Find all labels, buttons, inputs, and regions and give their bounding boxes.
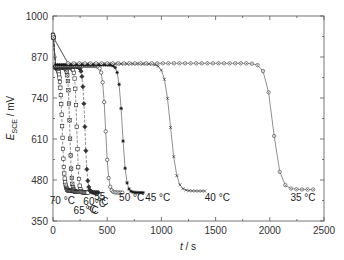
y-axis-label: ESCE / mV — [5, 95, 18, 140]
marker-square — [58, 76, 61, 79]
marker-dot — [224, 63, 225, 64]
y-tick-label: 1000 — [26, 11, 49, 22]
marker-asterisk — [119, 107, 122, 110]
marker-dot — [118, 63, 119, 64]
x-tick-label: 0 — [50, 225, 56, 236]
curve-label: 50 °C — [119, 192, 144, 203]
marker-dot — [157, 63, 158, 64]
x-tick-label: 500 — [99, 225, 116, 236]
marker-dot — [279, 171, 280, 172]
marker-dot — [140, 63, 141, 64]
marker-dot — [201, 63, 202, 64]
marker-dot — [235, 63, 236, 64]
marker-dot — [196, 63, 197, 64]
marker-square — [59, 86, 62, 89]
marker-dot — [129, 63, 130, 64]
series-55c — [51, 33, 101, 195]
marker-dot — [179, 63, 180, 64]
marker-dot — [168, 63, 169, 64]
marker-dot — [302, 189, 303, 190]
marker-dot — [246, 63, 247, 64]
marker-diamond — [80, 74, 84, 78]
marker-diamond — [84, 149, 88, 153]
marker-circle — [98, 67, 101, 70]
marker-dot — [257, 65, 258, 66]
marker-square — [77, 177, 80, 180]
marker-dot — [146, 63, 147, 64]
marker-square — [72, 71, 75, 74]
marker-asterisk — [121, 139, 124, 142]
marker-dot — [123, 63, 124, 64]
marker-dot — [134, 63, 135, 64]
marker-dot — [285, 185, 286, 186]
marker-dot — [73, 63, 74, 64]
marker-dot — [53, 34, 54, 35]
x-tick-label: 1000 — [150, 225, 173, 236]
marker-square — [62, 157, 65, 160]
marker-dot — [84, 63, 85, 64]
marker-dot — [212, 63, 213, 64]
marker-circle — [109, 185, 112, 188]
series-35c — [51, 33, 315, 191]
marker-circle — [107, 176, 110, 179]
marker-diamond — [85, 167, 89, 171]
marker-dot — [79, 63, 80, 64]
marker-square — [78, 184, 81, 187]
y-tick-label: 740 — [31, 93, 48, 104]
marker-square — [59, 93, 62, 96]
marker-circle — [101, 81, 104, 84]
marker-square — [62, 165, 65, 168]
marker-dot — [53, 37, 54, 38]
marker-dot — [107, 63, 108, 64]
series-line — [53, 35, 313, 190]
marker-circle — [102, 100, 105, 103]
curve-label: °C — [95, 198, 106, 209]
marker-asterisk — [113, 66, 116, 69]
x-tick-label: 2000 — [259, 225, 282, 236]
marker-circle — [99, 71, 102, 74]
marker-dot — [207, 63, 208, 64]
marker-square — [60, 124, 63, 127]
marker-diamond — [83, 125, 87, 129]
series-line — [53, 35, 143, 193]
marker-dot — [313, 189, 314, 190]
marker-square — [58, 80, 61, 83]
marker-dot — [173, 63, 174, 64]
curve-label: 35 °C — [290, 192, 315, 203]
marker-dot — [240, 63, 241, 64]
marker-square — [74, 103, 77, 106]
marker-x — [178, 183, 181, 186]
y-tick-label: 610 — [31, 134, 48, 145]
y-tick-label: 350 — [31, 216, 48, 227]
series-group — [51, 33, 315, 195]
marker-dot — [162, 63, 163, 64]
marker-square — [73, 77, 76, 80]
series-45c — [51, 33, 144, 194]
marker-square — [77, 165, 80, 168]
marker-dot — [296, 189, 297, 190]
marker-square — [75, 125, 78, 128]
marker-dot — [112, 63, 113, 64]
marker-square — [60, 113, 63, 116]
marker-dot — [268, 92, 269, 93]
marker-dot — [218, 63, 219, 64]
marker-square — [61, 136, 64, 139]
marker-square — [60, 102, 63, 105]
marker-asterisk — [115, 71, 118, 74]
curve-label: 70 °C — [50, 195, 75, 206]
marker-dot — [68, 63, 69, 64]
marker-dot — [274, 136, 275, 137]
marker-dot — [96, 63, 97, 64]
marker-square — [63, 172, 66, 175]
marker-dot — [229, 63, 230, 64]
marker-dot — [251, 63, 252, 64]
series-40c — [52, 33, 207, 192]
marker-dot — [190, 63, 191, 64]
marker-square — [61, 147, 64, 150]
marker-dot — [101, 63, 102, 64]
marker-dot — [185, 63, 186, 64]
marker-circle — [106, 158, 109, 161]
x-tick-label: 2500 — [313, 225, 336, 236]
marker-diamond — [86, 179, 90, 183]
x-axis-label: t / s — [180, 241, 196, 252]
